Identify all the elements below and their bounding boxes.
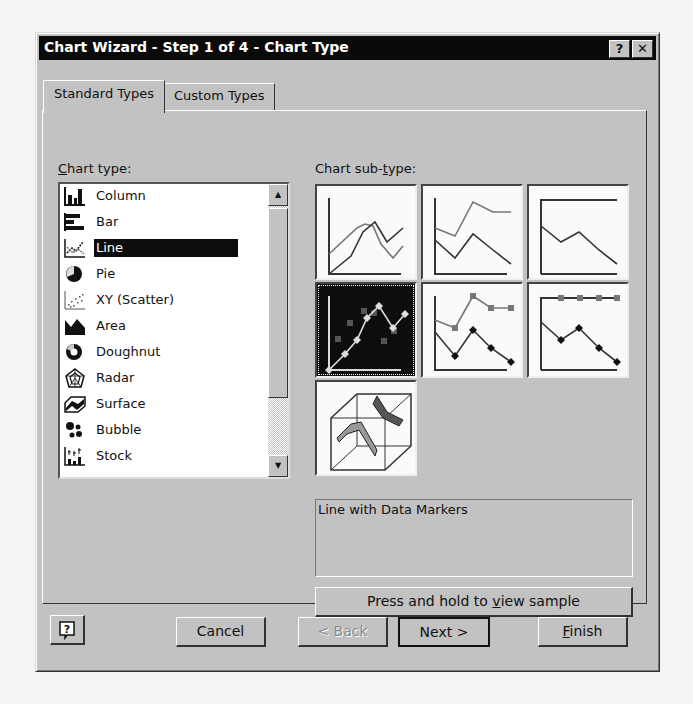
svg-text:?: ? [64, 623, 70, 636]
pie-chart-icon [64, 264, 86, 284]
line-with-markers-icon [317, 284, 417, 378]
subtype-description: Line with Data Markers [315, 499, 633, 577]
chart-subtype-label: Chart sub-type: [315, 161, 416, 176]
stacked-line-icon [423, 186, 523, 280]
subtype-100-stacked-line[interactable] [527, 184, 629, 280]
subtype-3d-line[interactable] [315, 380, 417, 476]
chart-type-scrollbar[interactable]: ▲ ▼ [268, 184, 288, 477]
list-item-surface[interactable]: Surface [62, 392, 266, 416]
arrow-down-icon: ▼ [275, 461, 281, 470]
line-chart-icon [64, 238, 86, 258]
list-item-line[interactable]: Line [62, 236, 266, 260]
subtype-stacked-line[interactable] [421, 184, 523, 280]
scroll-down-button[interactable]: ▼ [268, 455, 288, 477]
help-title-button[interactable]: ? [609, 40, 630, 58]
scroll-thumb[interactable] [268, 208, 288, 398]
help-button[interactable]: ? [50, 615, 85, 645]
radar-chart-icon [64, 368, 86, 388]
tab-custom-types[interactable]: Custom Types [164, 83, 275, 110]
title-bar[interactable]: Chart Wizard - Step 1 of 4 - Chart Type … [39, 36, 656, 60]
scatter-chart-icon [64, 290, 86, 310]
100-percent-stacked-line-with-markers-icon [529, 284, 629, 378]
list-item-bar[interactable]: Bar [62, 210, 266, 234]
3d-line-icon [317, 382, 417, 480]
stock-chart-icon [64, 446, 86, 466]
list-item-bubble[interactable]: Bubble [62, 418, 266, 442]
subtype-100-stacked-line-with-markers[interactable] [527, 282, 629, 378]
finish-button[interactable]: Finish [538, 617, 628, 647]
list-item-area[interactable]: Area [62, 314, 266, 338]
help-balloon-icon: ? [58, 620, 76, 640]
surface-chart-icon [64, 394, 86, 414]
chart-wizard-dialog: Chart Wizard - Step 1 of 4 - Chart Type … [35, 32, 660, 672]
subtype-line-with-markers[interactable] [315, 282, 417, 378]
100-percent-stacked-line-icon [529, 186, 629, 280]
stacked-line-with-markers-icon [423, 284, 523, 378]
cancel-button[interactable]: Cancel [176, 617, 266, 647]
bubble-chart-icon [64, 420, 86, 440]
view-sample-button[interactable]: Press and hold to view sample [315, 587, 633, 617]
chart-type-list[interactable]: Column Bar Line Pie XY (Scatter) [58, 182, 290, 479]
column-chart-icon [64, 186, 86, 206]
close-button[interactable]: ✕ [632, 40, 653, 58]
chart-type-label: Chart type: [58, 161, 131, 176]
list-item-doughnut[interactable]: Doughnut [62, 340, 266, 364]
area-chart-icon [64, 316, 86, 336]
list-item-pie[interactable]: Pie [62, 262, 266, 286]
tab-panel: Chart type: Column Bar Line Pie [42, 110, 647, 604]
subtype-stacked-line-with-markers[interactable] [421, 282, 523, 378]
tab-standard-types[interactable]: Standard Types [43, 80, 165, 113]
scroll-up-button[interactable]: ▲ [268, 184, 288, 206]
back-button[interactable]: < Back [298, 617, 388, 647]
list-item-scatter[interactable]: XY (Scatter) [62, 288, 266, 312]
list-item-column[interactable]: Column [62, 184, 266, 208]
list-item-stock[interactable]: Stock [62, 444, 266, 468]
bar-chart-icon [64, 212, 86, 232]
arrow-up-icon: ▲ [275, 190, 281, 199]
next-button[interactable]: Next > [398, 617, 490, 647]
subtype-line[interactable] [315, 184, 417, 280]
list-item-radar[interactable]: Radar [62, 366, 266, 390]
line-icon [317, 186, 417, 280]
doughnut-chart-icon [64, 342, 86, 362]
dialog-title: Chart Wizard - Step 1 of 4 - Chart Type [44, 39, 349, 55]
